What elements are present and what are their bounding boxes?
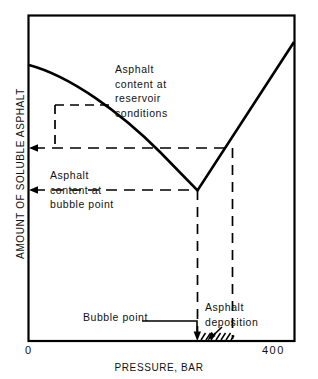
annotation-bubble-point-content: Asphalt content at bubble point xyxy=(50,168,114,212)
x-tick-label-max: 400 xyxy=(262,344,285,356)
annotation-reservoir-conditions: Asphalt content at reservoir conditions xyxy=(115,62,168,120)
x-axis-label: PRESSURE, BAR xyxy=(0,362,318,373)
asphalt-solubility-chart: AMOUNT OF SOLUBLE ASPHALT PRESSURE, BAR … xyxy=(0,0,318,379)
annotation-bubble-content-line1: Asphalt xyxy=(50,168,114,183)
annotation-reservoir-line4: conditions xyxy=(115,106,168,121)
annotation-reservoir-line2: content at xyxy=(115,77,168,92)
y-axis-label: AMOUNT OF SOLUBLE ASPHALT xyxy=(15,74,26,274)
annotation-bubble-point: Bubble point xyxy=(83,310,148,325)
annotation-reservoir-line3: reservoir xyxy=(115,91,168,106)
annotation-bubble-content-line2: content at xyxy=(50,183,114,198)
chart-svg xyxy=(0,0,318,379)
bubble-point-leader-line xyxy=(142,321,197,332)
reservoir-level-arrowhead xyxy=(29,144,38,152)
bubble-point-leader-arrowhead xyxy=(194,332,201,342)
annotation-bubble-content-line3: bubble point xyxy=(50,197,114,212)
x-tick-label-min: 0 xyxy=(25,344,32,356)
annotation-deposition-line2: deposition xyxy=(205,315,258,330)
asphalt-deposition-hatch xyxy=(201,333,234,340)
annotation-reservoir-line1: Asphalt xyxy=(115,62,168,77)
bubble-point-level-arrowhead xyxy=(29,186,38,194)
annotation-bubble-point-line1: Bubble point xyxy=(83,310,148,325)
annotation-asphalt-deposition: Asphalt deposition xyxy=(205,300,258,329)
annotation-deposition-line1: Asphalt xyxy=(205,300,258,315)
